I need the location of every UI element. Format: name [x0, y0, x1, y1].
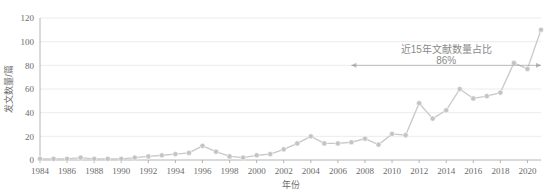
data-point-marker: [538, 27, 543, 32]
data-point-marker: [37, 156, 42, 161]
x-tick-label: 2018: [491, 166, 510, 176]
x-tick-label: 1994: [166, 166, 185, 176]
data-point-marker: [92, 156, 97, 161]
data-point-marker: [119, 156, 124, 161]
y-tick-label: 60: [25, 84, 35, 94]
data-point-marker: [444, 108, 449, 113]
data-point-marker: [146, 154, 151, 159]
data-point-marker: [335, 141, 340, 146]
data-point-marker: [159, 153, 164, 158]
x-axis-title: 年份: [282, 179, 300, 190]
annotation-line-1: 近15年文献数量占比: [401, 43, 492, 55]
data-point-marker: [525, 66, 530, 71]
data-point-marker: [403, 133, 408, 138]
data-point-marker: [51, 156, 56, 161]
data-point-marker: [389, 131, 394, 136]
data-point-marker: [295, 141, 300, 146]
data-point-marker: [511, 60, 516, 65]
x-tick-label: 1988: [85, 166, 104, 176]
data-point-marker: [281, 147, 286, 152]
data-point-marker: [376, 142, 381, 147]
x-tick-label: 2000: [248, 166, 267, 176]
data-point-marker: [268, 151, 273, 156]
data-point-marker: [417, 101, 422, 106]
data-point-marker: [254, 153, 259, 158]
x-tick-label: 2008: [356, 166, 375, 176]
data-point-marker: [105, 156, 110, 161]
data-point-marker: [457, 86, 462, 91]
x-tick-label: 2006: [329, 166, 348, 176]
data-point-marker: [186, 150, 191, 155]
y-tick-label: 120: [21, 13, 35, 23]
data-point-marker: [362, 136, 367, 141]
x-tick-label: 2016: [464, 166, 483, 176]
data-point-marker: [430, 116, 435, 121]
data-point-marker: [498, 90, 503, 95]
x-tick-label: 2012: [410, 166, 428, 176]
data-point-marker: [349, 140, 354, 145]
chart-background: [0, 0, 549, 194]
data-point-marker: [64, 156, 69, 161]
x-tick-label: 1992: [139, 166, 157, 176]
x-tick-label: 1990: [112, 166, 131, 176]
x-tick-label: 2002: [275, 166, 293, 176]
x-tick-label: 1996: [193, 166, 212, 176]
annotation-line-2: 86%: [436, 55, 456, 66]
data-point-marker: [471, 96, 476, 101]
y-tick-label: 100: [21, 37, 35, 47]
x-tick-label: 1984: [31, 166, 50, 176]
x-tick-label: 2010: [383, 166, 402, 176]
y-tick-label: 40: [25, 108, 35, 118]
data-point-marker: [484, 94, 489, 99]
data-point-marker: [78, 155, 83, 160]
y-tick-label: 80: [25, 61, 35, 71]
data-point-marker: [213, 149, 218, 154]
chart-canvas: 020406080100120 198419861988199019921994…: [0, 0, 549, 194]
y-tick-label: 0: [30, 155, 35, 165]
x-tick-label: 1998: [221, 166, 240, 176]
data-point-marker: [132, 155, 137, 160]
publication-trend-chart: 020406080100120 198419861988199019921994…: [0, 0, 549, 194]
data-point-marker: [200, 143, 205, 148]
data-point-marker: [173, 151, 178, 156]
data-point-marker: [241, 155, 246, 160]
y-tick-label: 20: [25, 132, 35, 142]
data-point-marker: [308, 134, 313, 139]
y-axis-title: 发文数量/篇: [3, 65, 14, 113]
x-tick-label: 2020: [518, 166, 537, 176]
x-tick-label: 2014: [437, 166, 456, 176]
data-point-marker: [322, 141, 327, 146]
x-tick-label: 1986: [58, 166, 77, 176]
x-tick-label: 2004: [302, 166, 321, 176]
data-point-marker: [227, 154, 232, 159]
